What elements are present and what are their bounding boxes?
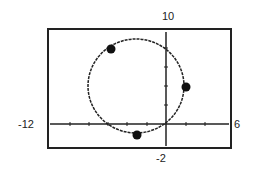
viewing-window-frame (48, 29, 231, 148)
point-3 (133, 131, 142, 140)
circle-curve (88, 39, 184, 133)
point-1 (107, 45, 116, 54)
graph-screen (0, 0, 257, 175)
point-2 (182, 83, 191, 92)
